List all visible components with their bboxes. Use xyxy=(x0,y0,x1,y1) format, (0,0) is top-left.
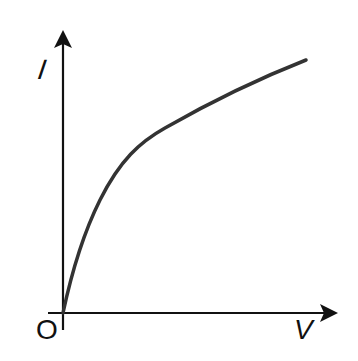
x-axis-label: V xyxy=(294,316,313,344)
iv-curve xyxy=(63,60,306,313)
graph-canvas xyxy=(0,0,358,361)
origin-label: O xyxy=(36,316,58,344)
